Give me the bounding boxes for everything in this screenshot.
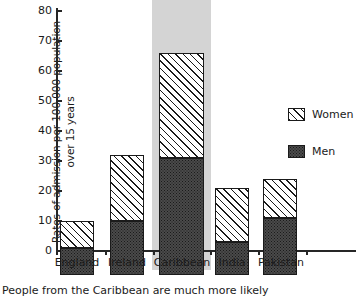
x-tick-1	[105, 250, 107, 255]
legend-label-women: Women	[312, 108, 353, 121]
y-tick-label-30: 30	[12, 155, 52, 166]
bar-segment-women-india[interactable]	[215, 188, 249, 242]
x-tick-0	[56, 250, 58, 255]
bar-segment-women-pakistan[interactable]	[263, 179, 297, 218]
y-tick-label-20: 20	[12, 185, 52, 196]
x-tick-4	[258, 250, 260, 255]
y-tick-label-10: 10	[12, 215, 52, 226]
y-tick-label-70: 70	[12, 35, 52, 46]
x-axis-label-india: India	[207, 256, 257, 269]
y-tick-label-40: 40	[12, 125, 52, 136]
bar-segment-women-caribbean[interactable]	[159, 53, 204, 158]
chart-figure: Rates of admission per 100 000 populatio…	[0, 0, 362, 275]
x-tick-5	[306, 250, 308, 255]
x-axis-label-pakistan: Pakistan	[253, 256, 309, 269]
x-axis-label-england: England	[52, 256, 102, 269]
y-tick-80	[56, 10, 62, 12]
bar-group-england[interactable]	[60, 25, 94, 275]
y-tick-label-0: 0	[12, 245, 52, 256]
x-tick-3	[210, 250, 212, 255]
x-axis-label-ireland: Ireland	[102, 256, 152, 269]
y-tick-label-80: 80	[12, 5, 52, 16]
legend-swatch-women-icon	[288, 108, 305, 121]
x-tick-2	[153, 250, 155, 255]
bar-group-india[interactable]	[215, 25, 249, 275]
legend-label-men: Men	[312, 145, 335, 158]
x-axis-label-caribbean: Caribbean	[152, 256, 212, 269]
legend-swatch-men-icon	[288, 145, 305, 158]
bar-group-caribbean[interactable]	[159, 25, 204, 275]
x-axis-line	[56, 250, 356, 252]
bar-segment-women-ireland[interactable]	[110, 155, 144, 221]
y-tick-label-60: 60	[12, 65, 52, 76]
bar-group-ireland[interactable]	[110, 25, 144, 275]
bar-segment-women-england[interactable]	[60, 221, 94, 248]
figure-caption: People from the Caribbean are much more …	[2, 284, 269, 298]
y-tick-label-50: 50	[12, 95, 52, 106]
